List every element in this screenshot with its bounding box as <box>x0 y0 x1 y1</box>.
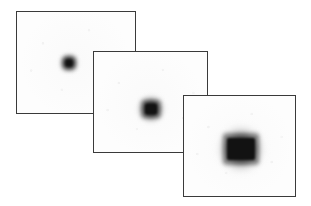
psf-halo <box>133 91 169 127</box>
psf-halo <box>56 50 82 76</box>
panel-front-noise <box>184 96 295 196</box>
psf-spot-small <box>56 50 82 76</box>
figure-canvas <box>0 0 311 206</box>
psf-core <box>66 60 73 67</box>
psf-midtone <box>223 134 259 165</box>
psf-halo <box>212 120 270 178</box>
psf-core <box>227 138 255 160</box>
psf-midtone <box>63 57 76 70</box>
psf-spot-large <box>212 120 270 178</box>
psf-core <box>145 104 157 115</box>
psf-midtone <box>142 100 161 118</box>
image-panel-front[interactable] <box>183 95 296 197</box>
panel-front-content <box>184 96 295 196</box>
psf-spot-medium <box>133 91 169 127</box>
